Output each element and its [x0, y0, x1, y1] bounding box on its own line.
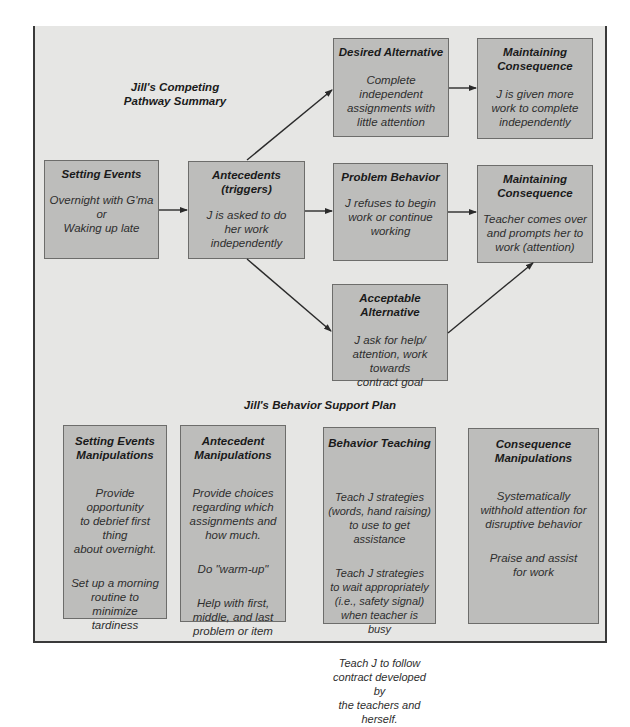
arrow-antecedents-to-acceptable	[247, 259, 331, 331]
plan-column-heading: Behavior Teaching	[328, 436, 431, 450]
arrow-antecedents-to-desired	[247, 90, 332, 160]
plan-column-behavior-teaching: Behavior Teaching Teach J strategies (wo…	[323, 427, 436, 624]
plan-column-antecedent: Antecedent Manipulations Provide choices…	[180, 425, 286, 622]
plan-item: Help with first, middle, and last proble…	[185, 596, 281, 638]
plan-column-heading: Antecedent Manipulations	[185, 434, 281, 462]
plan-item: Teach J strategies (words, hand raising)…	[328, 490, 431, 546]
plan-item: Systematically withhold attention for di…	[473, 489, 594, 531]
plan-column-setting-events: Setting Events Manipulations Provide opp…	[63, 425, 167, 619]
plan-item: Provide choices regarding which assignme…	[185, 486, 281, 542]
plan-column-heading: Consequence Manipulations	[473, 437, 594, 465]
plan-column-consequence: Consequence Manipulations Systematically…	[468, 428, 599, 624]
plan-item: Teach J to follow contract developed by …	[328, 656, 431, 726]
plan-item: Teach J strategies to wait appropriately…	[328, 566, 431, 636]
arrow-acceptable-to-consequence	[448, 263, 533, 333]
plan-item: Provide opportunity to debrief first thi…	[68, 486, 162, 556]
plan-column-heading: Setting Events Manipulations	[68, 434, 162, 462]
support-plan-title: Jill's Behavior Support Plan	[200, 398, 440, 412]
plan-item: Set up a morning routine to minimize tar…	[68, 576, 162, 632]
plan-item: Do "warm-up"	[185, 562, 281, 576]
plan-item: Praise and assist for work	[473, 551, 594, 579]
